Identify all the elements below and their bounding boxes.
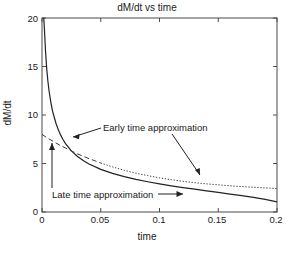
plot-canvas	[0, 0, 294, 255]
arrowhead-late-to-solid	[177, 191, 184, 197]
figure: dM/dt vs time dM/dt time 0 0.05 0.1 0.15…	[0, 0, 294, 255]
plot-frame	[42, 18, 277, 212]
axis-ticks	[42, 18, 277, 212]
series-layer	[42, 18, 277, 202]
series-line-late-time	[101, 163, 277, 189]
arrow-early-to-dotted	[172, 134, 200, 175]
arrowhead-late-to-dashed	[49, 143, 55, 150]
axes-box	[42, 18, 277, 212]
series-line-early-time	[44, 18, 277, 202]
